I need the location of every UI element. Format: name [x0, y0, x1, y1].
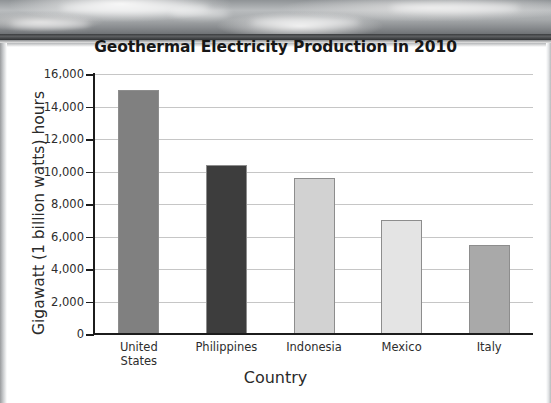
gridline [95, 139, 533, 140]
x-axis-title: Country [0, 368, 551, 387]
x-tick-label-line: Mexico [352, 341, 452, 355]
bar [381, 220, 422, 334]
bar [294, 178, 335, 334]
y-tick-label: 8,000 [4, 197, 84, 211]
x-tick-label-line: Philippines [176, 341, 276, 355]
plot-area [95, 74, 533, 334]
x-tick-label: Italy [439, 341, 539, 355]
y-tick-mark [86, 74, 94, 76]
y-axis-tick-labels: 02,0004,0006,0008,00010,00012,00014,0001… [0, 0, 84, 403]
y-tick-label: 14,000 [4, 100, 84, 114]
y-tick-mark [86, 334, 94, 336]
gridline [95, 172, 533, 173]
y-tick-label: 16,000 [4, 67, 84, 81]
gridline [95, 107, 533, 108]
y-tick-label: 12,000 [4, 132, 84, 146]
y-tick-mark [86, 302, 94, 304]
x-tick-label-line: United [89, 341, 189, 355]
y-tick-mark [86, 139, 94, 141]
x-tick-label: Mexico [352, 341, 452, 355]
y-tick-mark [86, 269, 94, 271]
y-tick-label: 4,000 [4, 262, 84, 276]
x-tick-label: UnitedStates [89, 341, 189, 368]
y-tick-mark [86, 172, 94, 174]
y-tick-label: 0 [4, 327, 84, 341]
x-tick-label-line: States [89, 355, 189, 369]
x-tick-label-line: Italy [439, 341, 539, 355]
x-tick-label: Philippines [176, 341, 276, 355]
bar [118, 90, 159, 334]
y-tick-mark [86, 107, 94, 109]
bar [206, 165, 247, 334]
x-axis-line [93, 333, 533, 335]
x-tick-label-line: Indonesia [264, 341, 364, 355]
y-tick-label: 10,000 [4, 165, 84, 179]
bar [469, 245, 510, 334]
y-tick-label: 6,000 [4, 230, 84, 244]
y-tick-mark [86, 204, 94, 206]
bar-chart: Geothermal Electricity Production in 201… [0, 0, 551, 403]
x-tick-label: Indonesia [264, 341, 364, 355]
gridline [95, 74, 533, 75]
y-tick-label: 2,000 [4, 295, 84, 309]
y-tick-mark [86, 237, 94, 239]
